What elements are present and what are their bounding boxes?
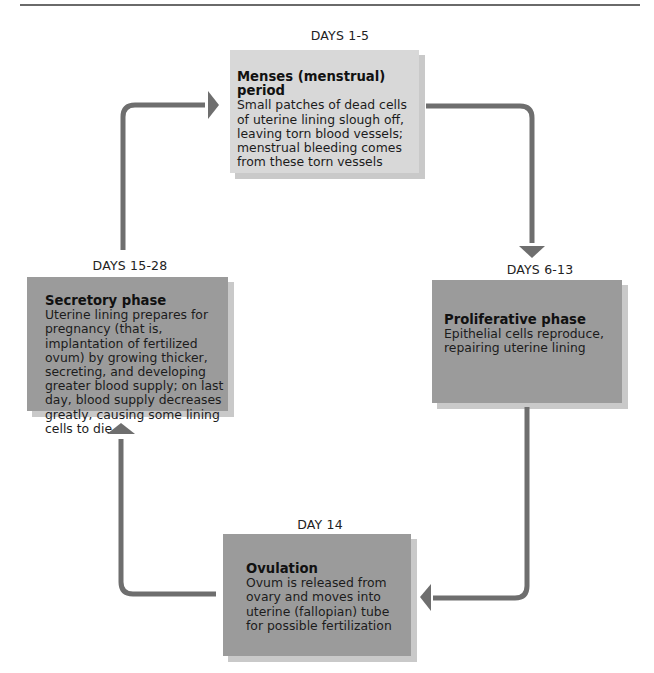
phase-content-proliferative: Proliferative phase Epithelial cells rep… (444, 313, 614, 356)
phase-box-menses: Menses (menstrual) period Small patches … (230, 50, 419, 173)
arrow-secretory-to-menses (123, 105, 205, 250)
phase-title-secretory: Secretory phase (45, 294, 225, 308)
days-label-menses: DAYS 1-5 (285, 28, 395, 43)
phase-box-proliferative: Proliferative phase Epithelial cells rep… (432, 280, 622, 403)
phase-title-menses: Menses (menstrual) period (237, 70, 417, 98)
days-label-ovulation: DAY 14 (265, 517, 375, 532)
phase-box-secretory: Secretory phase Uterine lining prepares … (27, 277, 228, 411)
arrow-right-icon (208, 91, 219, 119)
arrow-down-icon (519, 246, 545, 258)
days-label-secretory: DAYS 15-28 (75, 258, 185, 273)
top-divider-rule (20, 4, 640, 6)
phase-content-secretory: Secretory phase Uterine lining prepares … (45, 294, 225, 436)
phase-content-ovulation: Ovulation Ovum is released from ovary an… (246, 562, 406, 633)
phase-description-secretory: Uterine lining prepares for pregnancy (t… (45, 308, 225, 436)
phase-description-ovulation: Ovum is released from ovary and moves in… (246, 576, 406, 633)
phase-title-ovulation: Ovulation (246, 562, 406, 576)
phase-description-menses: Small patches of dead cells of uterine l… (237, 98, 417, 169)
phase-title-proliferative: Proliferative phase (444, 313, 614, 327)
phase-box-ovulation: Ovulation Ovum is released from ovary an… (223, 534, 411, 656)
arrow-menses-to-proliferative (426, 106, 532, 243)
phase-description-proliferative: Epithelial cells reproduce, repairing ut… (444, 327, 614, 355)
arrow-left-icon (420, 584, 431, 611)
phase-content-menses: Menses (menstrual) period Small patches … (237, 70, 417, 169)
arrow-ovulation-to-secretory (121, 439, 216, 594)
arrow-proliferative-to-ovulation (433, 407, 527, 598)
days-label-proliferative: DAYS 6-13 (485, 262, 595, 277)
